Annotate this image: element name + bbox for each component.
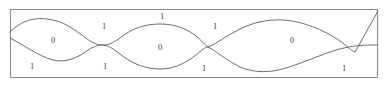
diagram-frame bbox=[11, 10, 378, 78]
region-label-bottom-2: 1 bbox=[103, 61, 107, 71]
curve-region-diagram: 1 1 1 0 0 0 1 1 1 1 bbox=[0, 0, 391, 89]
figure-container: 1 1 1 0 0 0 1 1 1 1 bbox=[0, 0, 391, 89]
region-label-lens-right: 0 bbox=[290, 35, 294, 45]
region-label-bottom-4: 1 bbox=[342, 63, 346, 73]
region-label-top-left: 1 bbox=[102, 21, 106, 31]
region-label-lens-left: 0 bbox=[51, 35, 55, 45]
region-label-top-right: 1 bbox=[213, 21, 217, 31]
region-label-lens-center: 0 bbox=[158, 42, 162, 52]
region-label-bottom-1: 1 bbox=[30, 61, 34, 71]
region-label-top-center: 1 bbox=[160, 11, 164, 21]
region-label-bottom-3: 1 bbox=[202, 63, 206, 73]
